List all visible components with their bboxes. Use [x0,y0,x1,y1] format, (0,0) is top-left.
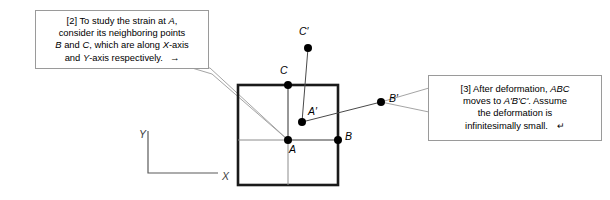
label-axis-y: Y [139,128,146,140]
callout-step-3: [3] After deformation, ABC moves to A'B'… [428,75,602,141]
label-axis-x: X [222,170,229,182]
callout-left-line-3: B and C, which are along X-axis [42,39,202,51]
coordinate-axes [148,131,218,173]
callout-left-line-4: and Y-axis respectively.→ [42,52,202,64]
callout-left-line-1: [2] To study the strain at A, [42,15,202,27]
callout-right-line-2: moves to A'B'C'. Assume [435,95,595,107]
label-point-a: A [289,143,296,155]
label-point-b: B [345,130,352,142]
callout-step-2: [2] To study the strain at A, consider i… [35,10,209,69]
label-point-c-prime: C′ [299,25,309,37]
label-point-a-prime: A′ [308,105,317,117]
var-abc: ABC [550,83,569,94]
var-abc-prime: A'B'C' [504,95,529,106]
label-point-c: C [280,64,288,76]
callout-left-line-2: consider its neighboring points [42,27,202,39]
callout-right-line-1: [3] After deformation, ABC [435,83,595,95]
arrow-right-icon: → [170,52,179,63]
callout-right-line-4: infinitesimally small.↵ [435,120,595,132]
callout-left-tail [192,68,288,140]
callout-right-line-3: the deformation is [435,107,595,119]
figure-canvas: A B C A′ B′ C′ Y X [2] To study the stra… [0,0,610,200]
label-point-b-prime: B′ [389,92,398,104]
return-arrow-icon: ↵ [557,120,565,131]
